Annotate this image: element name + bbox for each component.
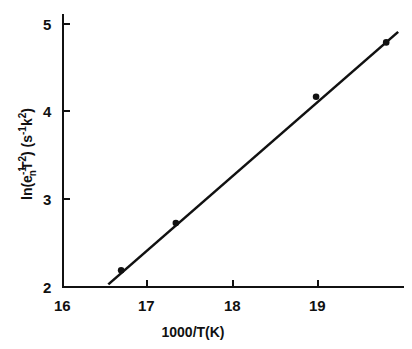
y-tick-label-5: 5 — [43, 16, 51, 33]
chart: 5 4 3 2 16 17 18 19 1000/T(K) ln(e-1nT2)… — [0, 0, 412, 349]
x-tick-label-18: 18 — [224, 297, 241, 314]
y-tick-label-3: 3 — [43, 191, 51, 208]
x-tick-label-16: 16 — [54, 297, 71, 314]
data-point — [118, 267, 125, 274]
y-tick-label-2: 2 — [43, 279, 51, 296]
data-point — [173, 220, 180, 227]
x-ticks — [147, 280, 318, 287]
y-axis-title: ln(e-1nT2) (s-1k2) — [17, 108, 38, 200]
x-axis-title: 1000/T(K) — [161, 324, 224, 340]
y-tick-label-4: 4 — [43, 103, 52, 120]
y-ticks — [63, 24, 70, 199]
data-point — [383, 39, 390, 46]
plot-area — [108, 32, 398, 284]
svg-text:ln(e-1nT2) (s-1k2): ln(e-1nT2) (s-1k2) — [17, 108, 38, 200]
x-tick-label-17: 17 — [138, 297, 155, 314]
fit-line — [108, 32, 398, 284]
data-point — [313, 93, 320, 100]
x-tick-label-19: 19 — [309, 297, 326, 314]
